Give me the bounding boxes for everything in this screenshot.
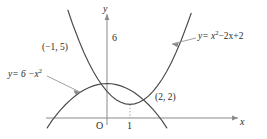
point-label-2-2: (2, 2)	[155, 93, 176, 103]
leader-line-downward-equation	[47, 76, 80, 92]
y-axis-arrow	[105, 14, 110, 20]
equation-upward-rhs-post: −2x+2	[218, 31, 243, 41]
y-axis-label: y	[103, 4, 107, 14]
equation-downward-lhs: y=	[8, 69, 19, 79]
equation-downward-rhs: 6 −x	[19, 69, 39, 79]
point-label-minus1-5: (−1, 5)	[42, 43, 68, 53]
equation-label-upward: y= x2−2x+2	[198, 32, 243, 42]
origin-label: O	[96, 121, 103, 131]
x-tick-label-1: 1	[127, 121, 132, 131]
x-axis-arrow	[232, 116, 238, 121]
equation-label-downward: y= 6 −x2	[8, 70, 42, 80]
leader-line-upward-equation	[172, 38, 196, 44]
equation-upward-lhs: y=	[198, 31, 209, 41]
x-axis-label: x	[240, 117, 244, 127]
y-tick-label-6: 6	[112, 33, 117, 43]
equation-downward-exponent: 2	[39, 67, 42, 74]
